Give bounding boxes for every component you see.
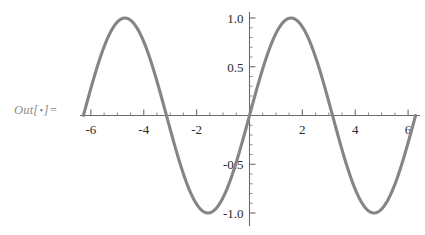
x-tick-label: 2 — [299, 122, 306, 137]
sine-plot-svg: -6-4-2246 -1.0-0.50.51.0 — [0, 0, 425, 235]
x-tick-label: -2 — [191, 122, 202, 137]
y-tick-label: 0.5 — [227, 60, 243, 75]
notebook-output-cell[interactable]: Out[▪]= -6-4-2246 -1.0-0.50.51.0 — [0, 0, 425, 235]
y-tick-label: 1.0 — [227, 11, 243, 26]
y-tick-label: -1.0 — [223, 206, 244, 221]
x-tick-label: -4 — [138, 122, 149, 137]
plot-graphics[interactable]: -6-4-2246 -1.0-0.50.51.0 — [0, 0, 425, 235]
x-tick-label: 4 — [352, 122, 359, 137]
x-tick-label: -6 — [85, 122, 96, 137]
